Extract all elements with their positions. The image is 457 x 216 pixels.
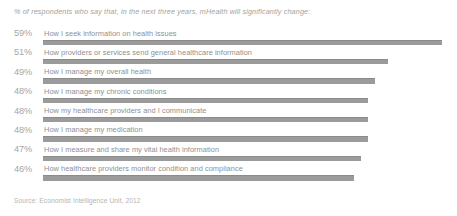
- bar-fill: [43, 156, 361, 161]
- mhealth-bar-chart: % of respondents who say that, in the ne…: [0, 0, 457, 216]
- bar-track: [43, 117, 449, 122]
- bar-category-label: How I manage my chronic conditions: [44, 87, 166, 96]
- bar-fill: [43, 117, 368, 122]
- bar-value-label: 48%: [14, 125, 41, 135]
- bar-value-label: 47%: [14, 144, 41, 154]
- bar-track: [43, 59, 449, 64]
- bar-category-label: How my healthcare providers and I commun…: [44, 106, 206, 115]
- chart-headline: % of respondents who say that, in the ne…: [14, 7, 310, 16]
- bar-value-label: 59%: [14, 28, 41, 38]
- bar-category-label: How I manage my medication: [44, 125, 143, 134]
- bar-value-label: 51%: [14, 47, 41, 57]
- bar-row: 47%How I measure and share my vital heal…: [0, 143, 457, 162]
- bar-row-list: 59%How I seek information on health issu…: [0, 27, 457, 182]
- bar-value-label: 48%: [14, 86, 41, 96]
- bar-fill: [43, 40, 442, 45]
- bar-track: [43, 136, 449, 141]
- bar-track: [43, 156, 449, 161]
- bar-category-label: How providers or services send general h…: [44, 48, 252, 57]
- bar-track: [43, 98, 449, 103]
- bar-row: 49%How I manage my overall health: [0, 66, 457, 85]
- bar-fill: [43, 175, 354, 180]
- bar-fill: [43, 98, 368, 103]
- bar-track: [43, 78, 449, 83]
- bar-category-label: How healthcare providers monitor conditi…: [44, 164, 243, 173]
- bar-track: [43, 175, 449, 180]
- bar-row: 48%How I manage my chronic conditions: [0, 85, 457, 104]
- bar-value-label: 49%: [14, 67, 41, 77]
- bar-row: 59%How I seek information on health issu…: [0, 27, 457, 46]
- bar-category-label: How I seek information on health issues: [44, 29, 177, 38]
- bar-track: [43, 40, 449, 45]
- bar-row: 51%How providers or services send genera…: [0, 46, 457, 65]
- bar-fill: [43, 78, 375, 83]
- bar-row: 46%How healthcare providers monitor cond…: [0, 163, 457, 182]
- chart-source: Source: Economist Intelligence Unit, 201…: [14, 197, 141, 204]
- bar-category-label: How I manage my overall health: [44, 67, 151, 76]
- bar-fill: [43, 136, 368, 141]
- bar-row: 48%How I manage my medication: [0, 124, 457, 143]
- bar-fill: [43, 59, 388, 64]
- bar-category-label: How I measure and share my vital health …: [44, 145, 219, 154]
- bar-value-label: 48%: [14, 106, 41, 116]
- bar-value-label: 46%: [14, 164, 41, 174]
- bar-row: 48%How my healthcare providers and I com…: [0, 105, 457, 124]
